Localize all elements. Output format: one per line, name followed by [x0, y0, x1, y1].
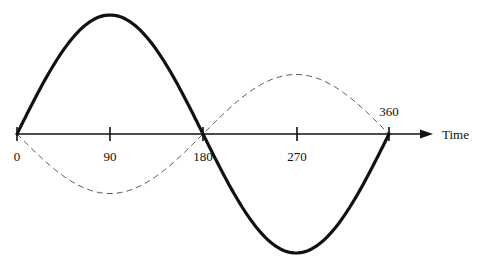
sine-wave-diagram: 0 90 180 270 360 Time: [0, 0, 481, 266]
tick-label-270: 270: [287, 149, 307, 164]
tick-label-360: 360: [379, 104, 399, 119]
axis-arrow-icon: [420, 130, 433, 139]
tick-label-180: 180: [193, 149, 213, 164]
tick-label-0: 0: [14, 149, 21, 164]
axis-label: Time: [442, 127, 469, 142]
tick-label-90: 90: [104, 149, 117, 164]
